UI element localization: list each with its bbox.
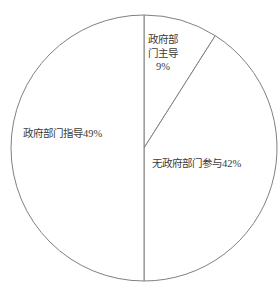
pie-slice-gov-guide[interactable] — [11, 15, 144, 281]
pie-label-no-gov: 无政府部门参与42% — [152, 157, 241, 170]
pie-label-gov-led-percent: 9% — [140, 60, 186, 74]
pie-label-gov-led-line1: 政府部 — [140, 33, 186, 47]
pie-label-gov-guide: 政府部门指导49% — [23, 127, 102, 140]
pie-label-gov-led: 政府部 门主导 9% — [140, 33, 186, 74]
pie-chart: 政府部 门主导 9% 政府部门指导49% 无政府部门参与42% — [0, 0, 280, 287]
pie-label-gov-led-line2: 门主导 — [140, 47, 186, 61]
